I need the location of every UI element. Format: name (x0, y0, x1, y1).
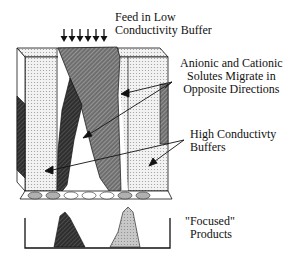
feed-label: Feed in Low Conductivity Buffer (115, 11, 212, 37)
feed-arrows (61, 29, 108, 42)
products-label: "Focused" Products (185, 215, 235, 241)
product-profile (25, 207, 170, 248)
buffers-label: High Conductivty Buffers (190, 128, 276, 154)
migrate-label: Anionic and Cationic Solutes Migrate in … (180, 57, 283, 96)
left-electrode-strip (17, 96, 25, 178)
right-electrode-strip (160, 84, 168, 144)
